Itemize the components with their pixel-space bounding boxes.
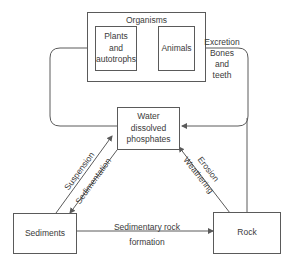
- sedimentary-rock-label: Sedimentary rock formation: [105, 222, 189, 248]
- sedimentary-rock-line-1: Sedimentary rock: [105, 222, 189, 233]
- animals-label: Animals: [161, 43, 191, 55]
- plants-label-line-3: autotrophs: [96, 54, 136, 66]
- animals-box: Animals: [158, 26, 195, 71]
- water-box: Water dissolved phosphates: [117, 107, 180, 150]
- rock-box: Rock: [213, 212, 281, 254]
- organisms-label: Organisms: [88, 15, 205, 27]
- excretion-line-3: and: [204, 59, 240, 70]
- water-label-line-2: dissolved: [131, 123, 166, 135]
- sedimentary-rock-line-2: formation: [105, 237, 189, 248]
- plants-label-line-1: Plants: [104, 31, 128, 43]
- water-label-line-3: phosphates: [127, 134, 171, 146]
- rock-label: Rock: [237, 227, 256, 239]
- excretion-line-1: Excretion: [204, 37, 240, 48]
- excretion-line-2: Bones: [204, 48, 240, 59]
- water-label-line-1: Water: [137, 111, 159, 123]
- plants-label-line-2: and: [109, 43, 123, 55]
- excretion-label: Excretion Bones and teeth: [204, 37, 240, 81]
- plants-box: Plants and autotrophs: [95, 26, 137, 71]
- sediments-label: Sediments: [25, 228, 65, 240]
- excretion-line-4: teeth: [204, 70, 240, 81]
- sediments-box: Sediments: [13, 213, 77, 254]
